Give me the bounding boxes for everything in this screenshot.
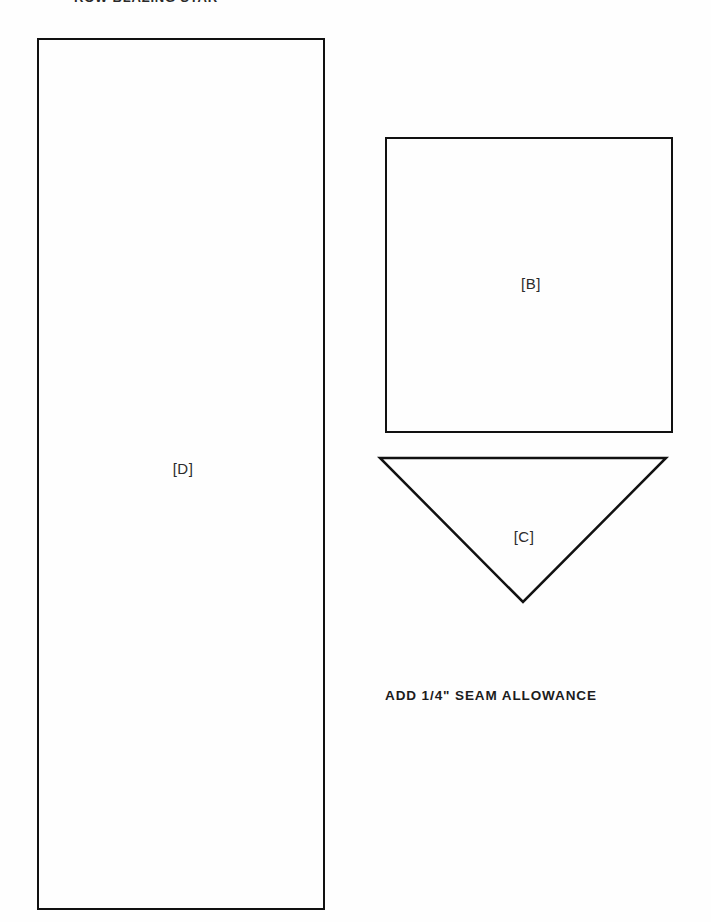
pattern-piece-d-label: [D] [39,460,327,477]
pattern-piece-b: [B] [385,137,673,433]
page-title: ROW BLAZING STAR [74,0,374,5]
seam-allowance-note: ADD 1/4" SEAM ALLOWANCE [385,688,597,703]
pattern-piece-b-label: [B] [387,275,675,292]
pattern-piece-d: [D] [37,38,325,910]
pattern-piece-c-label: [C] [372,528,676,545]
pattern-piece-c: [C] [372,450,676,612]
pattern-sheet: ROW BLAZING STAR [D] [B] [C] ADD 1/4" SE… [0,0,711,922]
